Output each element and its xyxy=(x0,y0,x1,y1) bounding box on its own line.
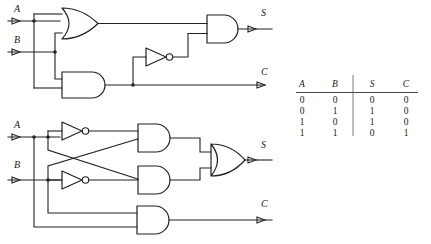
table-row: 1 0 1 0 xyxy=(300,117,409,127)
cell-a: 1 xyxy=(300,117,305,127)
input-b-label-top: B xyxy=(14,34,20,45)
table-row: 0 1 1 0 xyxy=(300,106,409,116)
circuit-bottom: A B xyxy=(8,119,272,234)
inverter-bubble xyxy=(166,54,172,60)
output-c-label-bottom: C xyxy=(261,198,268,209)
input-a-label-top: A xyxy=(13,3,21,14)
cell-b: 0 xyxy=(333,95,338,105)
output-s-label-top: S xyxy=(261,7,266,18)
cell-c: 0 xyxy=(404,95,409,105)
half-adder-truth-table: A B S C 0 0 0 0 0 1 1 0 1 0 1 0 1 xyxy=(296,75,418,138)
output-c-label-top: C xyxy=(261,66,268,77)
wire-and-upper-to-or xyxy=(170,138,211,152)
cell-s: 1 xyxy=(370,117,375,127)
output-s-label-bottom: S xyxy=(261,139,266,150)
cell-b: 1 xyxy=(333,106,338,116)
wire-and-lower-to-or xyxy=(170,168,211,180)
table-row: 1 1 0 1 xyxy=(300,128,409,138)
and-gate-lower xyxy=(138,166,170,194)
cell-a: 1 xyxy=(300,128,305,138)
input-a-label-bottom: A xyxy=(13,119,21,130)
or-gate-sum xyxy=(211,144,245,176)
cell-c: 0 xyxy=(404,106,409,116)
table-row: 0 0 0 0 xyxy=(300,95,409,105)
table-header-c: C xyxy=(403,79,410,89)
input-b-label-bottom: B xyxy=(14,159,20,170)
and-gate-top-output xyxy=(207,15,238,43)
cell-s: 0 xyxy=(370,95,375,105)
table-header-b: B xyxy=(332,79,338,89)
wire-not-to-and-output xyxy=(173,34,207,58)
cell-a: 0 xyxy=(300,95,305,105)
not-gate-a xyxy=(48,122,138,140)
cell-s: 1 xyxy=(370,106,375,116)
cell-s: 0 xyxy=(370,128,375,138)
and-gate-carry xyxy=(137,206,169,234)
table-header-s: S xyxy=(370,79,375,89)
and-gate-top-lower xyxy=(62,72,105,98)
or-gate-top xyxy=(62,8,98,39)
cell-c: 0 xyxy=(404,117,409,127)
cell-b: 0 xyxy=(333,117,338,127)
cell-c: 1 xyxy=(404,128,409,138)
logic-circuit-figure: A B xyxy=(0,0,431,244)
cell-b: 1 xyxy=(333,128,338,138)
cell-a: 0 xyxy=(300,106,305,116)
table-header-a: A xyxy=(298,79,305,89)
not-gate-b xyxy=(48,171,138,189)
not-gate-top xyxy=(146,48,173,66)
inverter-bubble xyxy=(82,128,88,134)
and-gate-upper xyxy=(138,124,170,152)
circuit-top: A B xyxy=(8,3,272,98)
inverter-bubble xyxy=(82,177,88,183)
wire-c-to-not xyxy=(133,57,146,85)
